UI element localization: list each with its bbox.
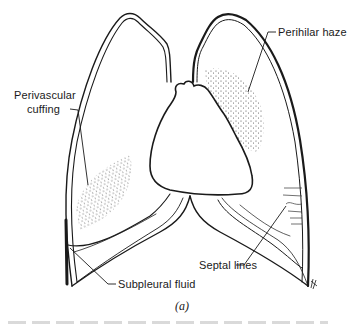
right-hemidiaphragm: [190, 196, 308, 286]
label-septal-lines: Septal lines: [199, 259, 257, 271]
artist-signature-mark: [311, 279, 317, 289]
perivascular-cuffing-stipple: [76, 155, 132, 230]
label-subpleural-fluid: Subpleural fluid: [118, 278, 195, 290]
panel-label: (a): [175, 299, 189, 314]
lung-diagram: Perihilar haze Perivascular cuffing Sept…: [0, 0, 362, 327]
label-perivascular: Perivascular: [14, 89, 76, 101]
label-perihilar-haze: Perihilar haze: [278, 26, 347, 38]
cutoff-caption-text: [8, 321, 328, 324]
label-cuffing: cuffing: [27, 103, 60, 115]
